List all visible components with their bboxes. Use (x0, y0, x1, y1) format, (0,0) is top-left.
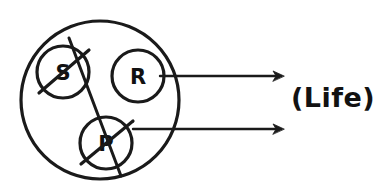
node-p: P (80, 117, 133, 169)
output-arrow-bottom (133, 124, 284, 134)
node-r-label: R (130, 65, 146, 89)
node-r: R (112, 50, 164, 102)
diagram-figure: S P R (Life) (0, 0, 375, 195)
s-p-crossing-line (69, 38, 121, 176)
outcome-label: (Life) (291, 82, 375, 113)
output-arrow-top (160, 71, 284, 81)
diagram-canvas: S P R (Life) (0, 0, 375, 195)
